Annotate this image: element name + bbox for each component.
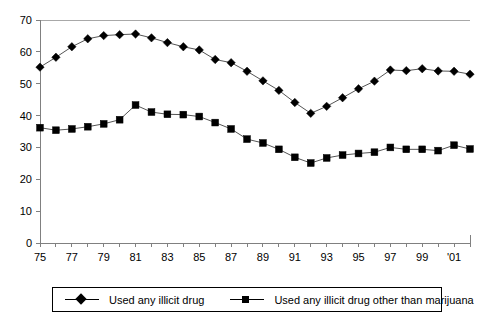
data-point-diamond (338, 94, 346, 102)
data-point-diamond (354, 85, 362, 93)
data-point-square (371, 149, 378, 156)
data-point-square (212, 119, 219, 126)
data-point-square (291, 154, 298, 161)
chart-series-group (36, 30, 474, 167)
data-point-square (339, 152, 346, 159)
data-point-square (100, 120, 107, 127)
data-point-square (180, 111, 187, 118)
data-point-diamond (52, 53, 60, 61)
y-tick-label: 0 (26, 237, 32, 249)
data-point-diamond (450, 67, 458, 75)
data-point-square (403, 146, 410, 153)
x-tick-label: '01 (447, 251, 461, 263)
data-point-square (451, 142, 458, 149)
data-point-square (435, 147, 442, 154)
square-marker-icon (230, 293, 264, 307)
series-line-path (40, 105, 470, 163)
data-point-square (132, 102, 139, 109)
x-axis-tick-labels: 75777981838587899193959799'01 (34, 251, 461, 263)
data-point-diamond (100, 31, 108, 39)
data-point-square (84, 123, 91, 130)
y-axis-tick-labels: 010203040506070 (20, 14, 32, 249)
data-point-square (68, 126, 75, 133)
data-point-diamond (68, 43, 76, 51)
data-point-diamond (322, 102, 330, 110)
data-point-square (387, 144, 394, 151)
chart-series-1 (36, 30, 474, 118)
x-tick-label: 97 (384, 251, 396, 263)
data-point-diamond (259, 77, 267, 85)
data-point-square (275, 146, 282, 153)
data-point-square (323, 155, 330, 162)
legend-item-illicit-drug-other: Used any illicit drug other than marijua… (230, 288, 473, 311)
data-point-square (164, 111, 171, 118)
data-point-square (116, 116, 123, 123)
chart-axes (36, 20, 470, 247)
data-point-square (244, 136, 251, 143)
x-tick-label: 83 (161, 251, 173, 263)
data-point-diamond (243, 67, 251, 75)
data-point-diamond (275, 86, 283, 94)
x-tick-label: 75 (34, 251, 46, 263)
data-point-diamond (115, 30, 123, 38)
data-point-diamond (418, 65, 426, 73)
data-point-diamond (291, 98, 299, 106)
data-point-diamond (466, 70, 474, 78)
legend-label-illicit-drug: Used any illicit drug (109, 294, 204, 306)
data-point-square (260, 140, 267, 147)
data-point-diamond (163, 38, 171, 46)
data-point-diamond (307, 109, 315, 117)
data-point-square (307, 160, 314, 167)
data-point-square (196, 113, 203, 120)
data-point-square (148, 109, 155, 116)
y-tick-label: 10 (20, 205, 32, 217)
x-tick-label: 77 (66, 251, 78, 263)
data-point-square (53, 127, 60, 134)
x-tick-label: 87 (225, 251, 237, 263)
y-tick-label: 60 (20, 46, 32, 58)
y-tick-label: 50 (20, 78, 32, 90)
line-chart-plot: 010203040506070 757779818385878991939597… (0, 0, 494, 322)
legend-label-illicit-drug-other: Used any illicit drug other than marijua… (274, 294, 473, 306)
data-point-square (467, 146, 474, 153)
legend-item-illicit-drug: Used any illicit drug (65, 288, 204, 311)
data-point-square (355, 150, 362, 157)
data-point-diamond (147, 34, 155, 42)
x-tick-label: 93 (321, 251, 333, 263)
chart-container: 010203040506070 757779818385878991939597… (0, 0, 494, 322)
x-tick-label: 79 (98, 251, 110, 263)
data-point-diamond (179, 43, 187, 51)
data-point-square (419, 146, 426, 153)
data-point-diamond (434, 67, 442, 75)
data-point-diamond (84, 35, 92, 43)
y-tick-label: 40 (20, 110, 32, 122)
data-point-diamond (195, 46, 203, 54)
data-point-diamond (227, 58, 235, 66)
y-tick-label: 20 (20, 173, 32, 185)
x-tick-label: 91 (289, 251, 301, 263)
data-point-diamond (131, 30, 139, 38)
x-tick-label: 95 (352, 251, 364, 263)
chart-legend: Used any illicit drug Used any illicit d… (52, 287, 442, 312)
data-point-square (37, 124, 44, 131)
x-tick-label: 89 (257, 251, 269, 263)
chart-series-2 (37, 102, 474, 167)
y-tick-label: 30 (20, 141, 32, 153)
data-point-diamond (386, 66, 394, 74)
x-tick-label: 81 (129, 251, 141, 263)
diamond-marker-icon (65, 293, 99, 307)
x-tick-label: 99 (416, 251, 428, 263)
y-tick-label: 70 (20, 14, 32, 26)
data-point-diamond (370, 77, 378, 85)
data-point-diamond (211, 55, 219, 63)
data-point-diamond (402, 66, 410, 74)
data-point-square (228, 126, 235, 133)
x-tick-label: 85 (193, 251, 205, 263)
data-point-diamond (36, 63, 44, 71)
